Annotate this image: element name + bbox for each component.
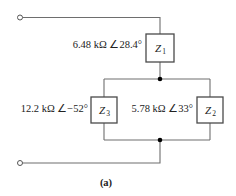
- z2-value-label: 5.78 kΩ ∠33°: [132, 103, 193, 114]
- upper-junction-node: [158, 77, 163, 82]
- circuit-diagram: Z1 6.48 kΩ ∠28.4° Z3 12.2 kΩ ∠−52° Z2 5.…: [0, 0, 236, 196]
- lower-junction-node: [158, 138, 163, 143]
- z3-value-label: 12.2 kΩ ∠−52°: [21, 103, 88, 114]
- top-wire: [23, 18, 161, 35]
- figure-caption: (a): [100, 177, 113, 189]
- z1-value-label: 6.48 kΩ ∠28.4°: [73, 39, 142, 50]
- top-terminal: [18, 15, 23, 20]
- impedance-z2: Z2 5.78 kΩ ∠33°: [132, 97, 223, 123]
- bottom-terminal: [18, 161, 23, 166]
- impedance-z3: Z3 12.2 kΩ ∠−52°: [21, 97, 117, 123]
- impedance-z1: Z1 6.48 kΩ ∠28.4°: [73, 34, 174, 62]
- bottom-wire: [23, 140, 161, 163]
